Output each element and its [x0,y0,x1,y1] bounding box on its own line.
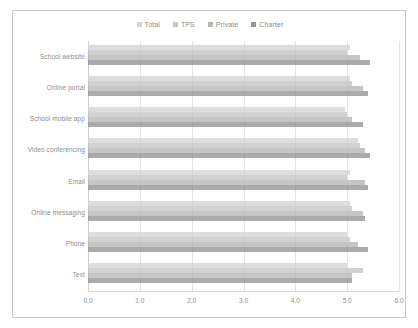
bar-group [88,232,399,256]
bar-group [88,263,399,287]
y-axis-label-video-conferencing: Video conferencing [21,146,85,153]
x-axis-tick-1.0: 1.0 [135,297,144,304]
bar-group [88,201,399,225]
bar-charter-school-website[interactable] [88,60,370,65]
y-axis-label-online-messaging: Online messaging [21,209,85,216]
legend-swatch-icon [208,22,213,27]
legend-label: Charter [259,21,283,28]
legend-swatch-icon [137,22,142,27]
bar-groups [88,41,399,291]
y-axis-label-online-portal: Online portal [21,84,85,91]
y-axis-label-school-website: School website [21,53,85,60]
legend-item-total[interactable]: Total [137,21,160,28]
bar-charter-online-portal[interactable] [88,91,368,96]
plot-area [88,41,399,291]
x-axis-tick-5.0: 5.0 [343,297,352,304]
bar-group [88,170,399,194]
bar-group [88,107,399,131]
legend-label: Total [145,21,160,28]
bar-group [88,76,399,100]
y-axis-label-text: Text [21,271,85,278]
legend-item-charter[interactable]: Charter [251,21,283,28]
chart-container: TotalTPSPrivateCharter School websiteOnl… [12,10,406,318]
bar-charter-text[interactable] [88,278,352,283]
gridline-6.0 [399,41,400,291]
y-axis-label-phone: Phone [21,240,85,247]
x-axis-tick-2.0: 2.0 [187,297,196,304]
x-axis-tick-3.0: 3.0 [239,297,248,304]
x-axis-tick-0.0: 0.0 [83,297,92,304]
chart-legend: TotalTPSPrivateCharter [13,21,407,28]
legend-label: TPS [181,21,195,28]
bar-charter-email[interactable] [88,185,368,190]
bar-charter-video-conferencing[interactable] [88,153,370,158]
x-axis-tick-6.0: 6.0 [394,297,403,304]
bar-group [88,45,399,69]
y-axis-label-school-mobile-app: School mobile app [21,115,85,122]
bar-charter-phone[interactable] [88,247,368,252]
bar-group [88,138,399,162]
x-axis-line [88,291,399,292]
legend-swatch-icon [251,22,256,27]
x-axis-tick-labels: 0.01.02.03.04.05.06.0 [88,297,399,311]
y-axis-label-email: Email [21,178,85,185]
legend-item-tps[interactable]: TPS [173,21,195,28]
bar-charter-school-mobile-app[interactable] [88,122,363,127]
bar-charter-online-messaging[interactable] [88,216,365,221]
x-axis-tick-4.0: 4.0 [291,297,300,304]
y-axis-category-labels: School websiteOnline portalSchool mobile… [21,41,85,291]
legend-swatch-icon [173,22,178,27]
legend-item-private[interactable]: Private [208,21,239,28]
legend-label: Private [216,21,239,28]
